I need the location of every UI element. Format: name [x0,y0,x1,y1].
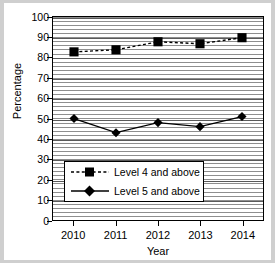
x-tick-2014: 2014 [220,229,266,241]
y-tick-20: 20 [9,175,49,185]
legend-label-level4: Level 4 and above [110,166,200,178]
y-tick-90: 90 [9,32,49,42]
data-point-1-2011 [111,45,120,54]
x-tick-2011: 2011 [93,229,139,241]
x-tickmark-2011 [116,221,117,226]
data-point-2-2013 [195,122,204,131]
x-tickmark-2013 [200,221,201,226]
y-tick-40: 40 [9,134,49,144]
data-point-2-2011 [111,128,120,137]
x-tickmark-2014 [243,221,244,226]
legend-item-level5[interactable]: Level 5 and above [65,181,203,200]
y-tick-80: 80 [9,52,49,62]
y-tick-70: 70 [9,73,49,83]
legend-item-level4[interactable]: Level 4 and above [65,162,203,181]
data-point-2-2010 [69,114,78,123]
y-tick-0: 0 [9,216,49,226]
legend-label-level5: Level 5 and above [110,185,200,197]
data-point-1-2012 [153,37,162,46]
y-tick-30: 30 [9,154,49,164]
x-axis-title: Year [52,245,264,257]
x-tickmark-2012 [158,221,159,226]
data-point-1-2014 [237,33,246,42]
legend-symbol-diamond-solid [70,184,110,198]
chart-figure: Percentage 1009080706050403020100 201020… [4,3,271,260]
x-tick-2013: 2013 [177,229,223,241]
x-tick-2010: 2010 [50,229,96,241]
y-tick-60: 60 [9,93,49,103]
data-point-2-2014 [237,112,246,121]
chart-legend[interactable]: Level 4 and above Level 5 and above [64,161,204,202]
data-point-2-2012 [153,118,162,127]
legend-symbol-square-dashed [70,165,110,179]
y-tick-10: 10 [9,195,49,205]
y-tick-100: 100 [9,12,49,22]
data-point-1-2013 [195,39,204,48]
y-tick-50: 50 [9,114,49,124]
x-tickmark-2010 [73,221,74,226]
x-tick-2012: 2012 [135,229,181,241]
data-point-1-2010 [69,47,78,56]
